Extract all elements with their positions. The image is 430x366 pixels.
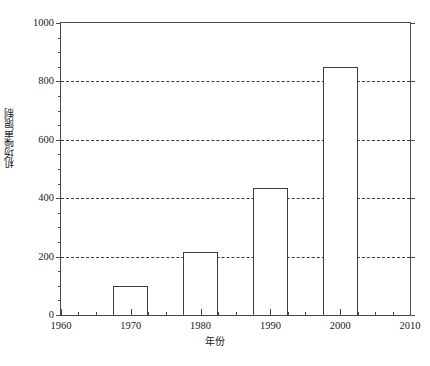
bar-1990 [253,188,288,315]
x-tick-label: 1980 [190,320,211,331]
x-tick-minor [288,312,289,315]
gridline [61,257,410,258]
y-tick-label: 400 [38,193,54,203]
y-tick-minor [58,96,61,97]
x-tick-minor [236,312,237,315]
x-tick-label: 1990 [260,320,281,331]
y-tick-minor [58,67,61,68]
x-tick-minor [253,312,254,315]
x-tick [131,309,132,315]
y-tick [56,23,61,24]
y-tick [56,81,61,82]
y-tick-minor [58,154,61,155]
figure-caption [0,357,430,366]
bar-chart-figure: 机场噪声限制 020040060080010001960197019801990… [0,0,430,366]
x-tick-minor [78,312,79,315]
plot-area: 0200400600800100019601970198019902000201… [60,22,411,316]
y-tick-label: 800 [38,76,54,86]
x-tick [61,309,62,315]
x-tick-minor [358,312,359,315]
y-tick-label: 600 [38,135,54,145]
y-tick [56,257,61,258]
x-tick-minor [375,312,376,315]
y-tick-minor [58,286,61,287]
x-tick-minor [305,312,306,315]
x-tick-minor [148,312,149,315]
y-tick-minor [58,242,61,243]
y-tick-label: 0 [49,310,54,320]
x-tick-minor [218,312,219,315]
y-tick [56,315,61,316]
y-tick [56,140,61,141]
gridline [61,140,410,141]
x-tick-minor [393,312,394,315]
bar-1980 [183,252,218,315]
y-tick [410,81,415,82]
y-tick-minor [58,111,61,112]
y-tick-minor [58,52,61,53]
x-tick [340,309,341,315]
y-tick-minor [58,125,61,126]
y-axis-label: 机场噪声限制 [4,108,18,168]
x-tick [270,309,271,315]
x-tick-minor [183,312,184,315]
y-tick-label: 200 [38,252,54,262]
x-tick-minor [166,312,167,315]
y-tick-label: 1000 [33,18,54,28]
x-axis-label: 年份 [0,333,430,348]
bar-2000 [323,67,358,315]
y-tick [410,140,415,141]
y-tick [410,23,415,24]
gridline [61,198,410,199]
y-tick [410,198,415,199]
y-tick-minor [58,169,61,170]
y-tick [410,257,415,258]
y-tick-minor [58,227,61,228]
x-tick-label: 1960 [51,320,72,331]
y-tick-minor [58,213,61,214]
x-tick-minor [96,312,97,315]
y-tick-minor [58,38,61,39]
gridline [61,81,410,82]
x-tick [410,309,411,315]
y-tick-minor [58,184,61,185]
x-tick-label: 2010 [400,320,421,331]
x-tick [201,309,202,315]
x-tick-label: 2000 [330,320,351,331]
y-tick-minor [58,300,61,301]
x-tick-minor [323,312,324,315]
y-tick-minor [58,271,61,272]
x-tick-minor [113,312,114,315]
y-tick [56,198,61,199]
y-tick [410,315,415,316]
x-tick-label: 1970 [120,320,141,331]
